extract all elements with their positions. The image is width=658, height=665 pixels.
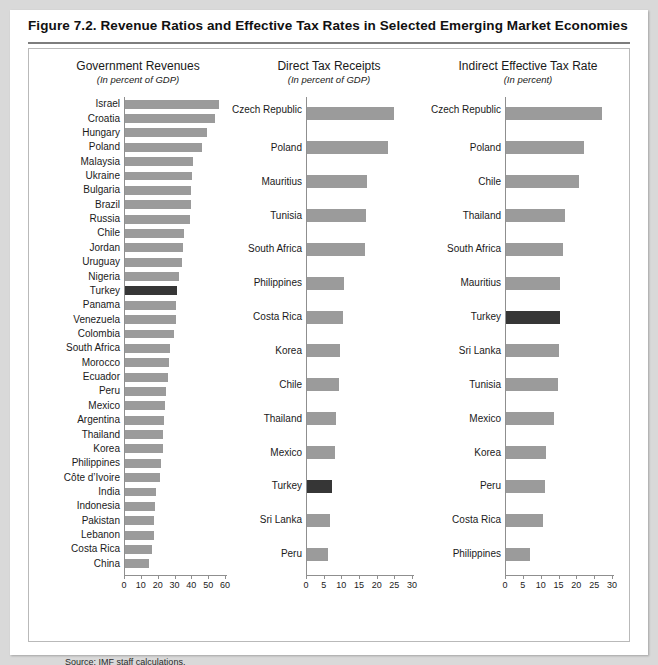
category-label: Thailand bbox=[229, 413, 302, 424]
bar bbox=[125, 488, 156, 497]
x-axis-tick bbox=[124, 575, 125, 579]
category-label: China bbox=[29, 558, 120, 569]
bar bbox=[125, 545, 152, 554]
category-label: Turkey bbox=[229, 480, 302, 491]
category-label: Lebanon bbox=[29, 529, 120, 540]
bar bbox=[125, 229, 184, 238]
bar bbox=[125, 502, 155, 511]
category-label: South Africa bbox=[427, 243, 501, 254]
bar bbox=[125, 301, 176, 310]
y-axis-line bbox=[505, 97, 506, 575]
category-label: Israel bbox=[29, 98, 120, 109]
category-label: Chile bbox=[229, 379, 302, 390]
x-axis-tick bbox=[541, 575, 542, 579]
source-note: Source: IMF staff calculations. bbox=[65, 657, 185, 665]
x-axis-line bbox=[505, 575, 614, 576]
title-divider bbox=[28, 42, 630, 44]
x-axis-tick bbox=[324, 575, 325, 579]
category-label: Bulgaria bbox=[29, 184, 120, 195]
bar bbox=[125, 143, 202, 152]
bar bbox=[125, 272, 179, 281]
category-label: Ecuador bbox=[29, 371, 120, 382]
bar bbox=[125, 387, 166, 396]
category-label: Venezuela bbox=[29, 314, 120, 325]
category-label: Poland bbox=[29, 141, 120, 152]
x-axis-tick bbox=[306, 575, 307, 579]
bar bbox=[125, 286, 177, 295]
bar bbox=[307, 446, 335, 459]
category-label: Hungary bbox=[29, 127, 120, 138]
bar bbox=[307, 141, 388, 154]
panel-indirect-effective-tax-rate: Indirect Effective Tax Rate (In percent)… bbox=[427, 49, 629, 641]
bar bbox=[506, 311, 560, 324]
bar bbox=[506, 446, 546, 459]
bar bbox=[307, 277, 344, 290]
bar bbox=[125, 416, 164, 425]
category-label: Ukraine bbox=[29, 170, 120, 181]
bar bbox=[125, 559, 149, 568]
bar bbox=[125, 157, 193, 166]
category-label: Philippines bbox=[229, 277, 302, 288]
bar bbox=[125, 186, 191, 195]
x-axis-tick bbox=[341, 575, 342, 579]
category-label: Korea bbox=[29, 443, 120, 454]
bar bbox=[125, 430, 163, 439]
x-axis-tick bbox=[208, 575, 209, 579]
bar bbox=[506, 412, 554, 425]
category-label: Tunisia bbox=[427, 379, 501, 390]
bar bbox=[125, 100, 219, 109]
category-label: Russia bbox=[29, 213, 120, 224]
bar bbox=[307, 311, 343, 324]
category-label: Peru bbox=[229, 548, 302, 559]
category-label: Morocco bbox=[29, 357, 120, 368]
category-label: Mauritius bbox=[427, 277, 501, 288]
bar bbox=[307, 107, 394, 120]
y-axis-line bbox=[306, 97, 307, 575]
category-label: Sri Lanka bbox=[427, 345, 501, 356]
x-axis-tick bbox=[175, 575, 176, 579]
category-label: Indonesia bbox=[29, 500, 120, 511]
category-label: Turkey bbox=[427, 311, 501, 322]
bar bbox=[125, 243, 183, 252]
bar bbox=[125, 215, 190, 224]
bar bbox=[506, 548, 530, 561]
chart-area: 051015202530Czech RepublicPolandChileTha… bbox=[427, 49, 629, 641]
x-axis-tick bbox=[576, 575, 577, 579]
bar bbox=[125, 172, 192, 181]
category-label: South Africa bbox=[229, 243, 302, 254]
bar bbox=[125, 373, 168, 382]
chart-area: 051015202530Czech RepublicPolandMauritiu… bbox=[229, 49, 429, 641]
x-axis-tick bbox=[394, 575, 395, 579]
x-axis-tick-label: 30 bbox=[400, 580, 424, 590]
bar bbox=[125, 473, 160, 482]
bar bbox=[506, 344, 559, 357]
bar bbox=[506, 514, 543, 527]
category-label: Costa Rica bbox=[427, 514, 501, 525]
bar bbox=[307, 412, 336, 425]
x-axis-tick bbox=[559, 575, 560, 579]
x-axis-line bbox=[306, 575, 414, 576]
category-label: Poland bbox=[229, 142, 302, 153]
plot-frame: Government Revenues (In percent of GDP) … bbox=[28, 48, 630, 642]
category-label: Korea bbox=[427, 447, 501, 458]
category-label: Mexico bbox=[29, 400, 120, 411]
bar bbox=[125, 444, 163, 453]
bar bbox=[125, 344, 170, 353]
bar bbox=[506, 141, 584, 154]
category-label: South Africa bbox=[29, 342, 120, 353]
category-label: Argentina bbox=[29, 414, 120, 425]
category-label: Panama bbox=[29, 299, 120, 310]
bar bbox=[125, 459, 161, 468]
category-label: Malaysia bbox=[29, 156, 120, 167]
category-label: Colombia bbox=[29, 328, 120, 339]
category-label: Thailand bbox=[427, 210, 501, 221]
category-label: Jordan bbox=[29, 242, 120, 253]
x-axis-tick bbox=[359, 575, 360, 579]
category-label: Brazil bbox=[29, 199, 120, 210]
x-axis-tick bbox=[594, 575, 595, 579]
category-label: Pakistan bbox=[29, 515, 120, 526]
x-axis-tick bbox=[612, 575, 613, 579]
x-axis-tick bbox=[412, 575, 413, 579]
bar bbox=[506, 243, 563, 256]
x-axis-tick-label: 30 bbox=[600, 580, 624, 590]
